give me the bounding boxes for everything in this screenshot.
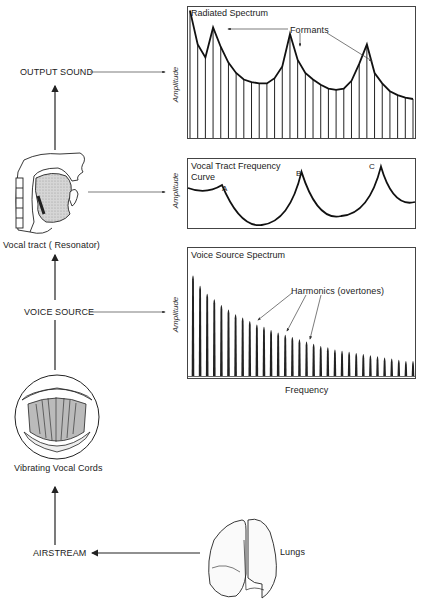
harmonic-spike — [405, 361, 408, 376]
harmonic-spike — [206, 294, 209, 376]
harmonic-spike — [298, 339, 301, 376]
formant-envelope-curve — [190, 11, 413, 99]
harmonic-spike — [390, 359, 393, 376]
diagram-canvas — [0, 0, 422, 604]
harmonic-spike — [291, 337, 294, 376]
harmonic-spike — [355, 353, 358, 376]
harmonic-spike — [199, 286, 202, 376]
harmonic-spike — [241, 318, 244, 376]
formants-arrows — [228, 29, 372, 61]
harmonic-spike — [270, 330, 273, 376]
harmonic-spike — [192, 275, 195, 376]
harmonic-spike — [284, 335, 287, 376]
harmonic-spike — [220, 305, 223, 376]
radiated-spectrum-frame — [188, 7, 416, 139]
harmonic-spike — [277, 332, 280, 376]
harmonic-spike — [412, 361, 415, 376]
harmonic-spike — [334, 350, 337, 377]
harmonic-spike — [376, 356, 379, 376]
harmonic-spike — [248, 321, 251, 376]
harmonic-spike — [319, 346, 322, 376]
harmonic-spike — [383, 357, 386, 376]
harmonic-spike — [312, 344, 315, 376]
harmonic-spike — [362, 354, 365, 376]
radiated-spectrum-bars — [190, 11, 413, 138]
harmonic-spike — [398, 360, 401, 376]
harmonic-spike — [369, 355, 372, 376]
harmonics-arrows — [258, 293, 321, 339]
vocal-cords-illustration — [15, 375, 99, 459]
harmonic-spike — [256, 324, 259, 376]
vocal-tract-curve — [188, 167, 415, 226]
voice-source-bars — [188, 275, 415, 376]
vocal-tract-head-illustration — [16, 153, 85, 233]
connector-arrows — [88, 72, 165, 312]
harmonic-spike — [213, 299, 216, 376]
lungs-illustration — [209, 519, 277, 598]
harmonic-spike — [234, 314, 237, 376]
harmonic-spike — [341, 351, 344, 376]
harmonic-spike — [327, 347, 330, 376]
harmonic-spike — [263, 327, 266, 376]
harmonic-spike — [348, 352, 351, 376]
harmonic-spike — [305, 342, 308, 376]
harmonic-spike — [227, 310, 230, 376]
